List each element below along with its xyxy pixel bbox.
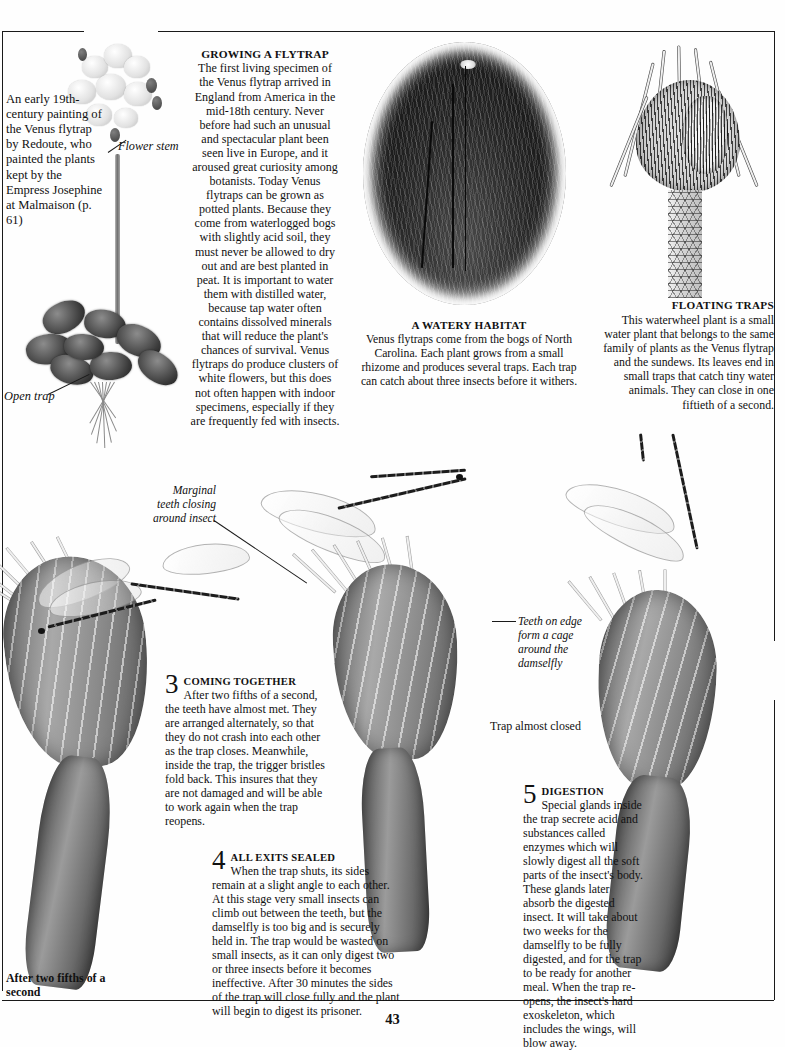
floating-traps-heading: FLOATING TRAPS xyxy=(600,299,774,312)
bog-habitat-photo xyxy=(363,42,566,305)
step-3-heading: COMING TOGETHER xyxy=(184,676,297,687)
floating-traps-body: This waterwheel plant is a small water p… xyxy=(603,313,774,411)
top-rule-right xyxy=(158,31,775,32)
teeth-edge-leader-line xyxy=(492,621,516,622)
growing-a-flytrap-heading: GROWING A FLYTRAP xyxy=(190,48,340,61)
waterwheel-trap-shape xyxy=(636,80,740,192)
step-4-number: 4 xyxy=(212,850,231,871)
step-4-block: 4 ALL EXITS SEALED When the trap shuts, … xyxy=(212,850,402,1018)
flytrap-blossom-highlight xyxy=(460,60,476,69)
step-3-block: 3 COMING TOGETHER After two fifths of a … xyxy=(165,674,330,828)
step-5-heading: DIGESTION xyxy=(542,786,604,797)
watery-habitat-caption: A WATERY HABITAT Venus flytraps come fro… xyxy=(358,319,580,388)
step-3-body: After two fifths of a second, the teeth … xyxy=(165,688,325,828)
after-two-fifths-label: After two fifths of a second xyxy=(6,971,126,1000)
watery-habitat-body: Venus flytraps come from the bogs of Nor… xyxy=(361,333,577,387)
step-3-number: 3 xyxy=(165,674,184,695)
floating-traps-caption: FLOATING TRAPS This waterwheel plant is … xyxy=(600,299,774,412)
growing-a-flytrap-body: The first living specimen of the Venus f… xyxy=(191,61,340,427)
waterwheel-plant-illustration xyxy=(606,38,778,298)
flower-stem-label: Flower stem xyxy=(118,139,180,153)
growing-a-flytrap-article: GROWING A FLYTRAP The first living speci… xyxy=(190,48,340,428)
step-4-body: When the trap shuts, its sides remain at… xyxy=(212,864,400,1018)
step-5-number: 5 xyxy=(523,784,542,805)
open-trap-label: Open trap xyxy=(4,389,58,403)
top-rule-left xyxy=(2,31,84,32)
redoute-caption: An early 19th-century painting of the Ve… xyxy=(6,92,106,228)
watery-habitat-heading: A WATERY HABITAT xyxy=(358,319,580,332)
damselfly-head xyxy=(38,628,45,634)
step-4-heading: ALL EXITS SEALED xyxy=(231,852,336,863)
waterwheel-stalk-shape xyxy=(668,190,702,298)
page-number: 43 xyxy=(0,1011,785,1028)
marginal-teeth-label: Marginal teeth closing around insect xyxy=(150,484,216,526)
